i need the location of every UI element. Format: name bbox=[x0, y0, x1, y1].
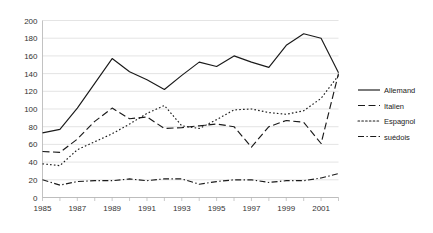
series-line-italien bbox=[43, 74, 339, 153]
x-tick-label-1993: 1993 bbox=[173, 204, 191, 213]
legend-label-italien: Italien bbox=[384, 102, 404, 111]
chart-canvas: 020406080100120140160180200 198519871989… bbox=[0, 0, 433, 233]
x-tick-label-1989: 1989 bbox=[103, 204, 121, 213]
series-line-suédois bbox=[43, 174, 339, 186]
axis-tickmarks bbox=[43, 198, 339, 202]
legend-label-espagnol: Espagnol bbox=[384, 117, 416, 126]
y-tick-label-120: 120 bbox=[24, 87, 38, 96]
x-tick-label-1997: 1997 bbox=[243, 204, 261, 213]
x-tick-label-1985: 1985 bbox=[34, 204, 52, 213]
y-tick-label-100: 100 bbox=[24, 105, 38, 114]
y-tick-label-80: 80 bbox=[29, 123, 38, 132]
y-tick-label-180: 180 bbox=[24, 34, 38, 43]
line-chart: 020406080100120140160180200 198519871989… bbox=[0, 0, 433, 233]
legend-label-allemand: Allemand bbox=[384, 86, 415, 95]
y-tick-label-60: 60 bbox=[29, 140, 38, 149]
x-tick-label-1995: 1995 bbox=[208, 204, 226, 213]
y-tick-label-20: 20 bbox=[29, 176, 38, 185]
x-tick-label-1999: 1999 bbox=[277, 204, 295, 213]
series-line-allemand bbox=[43, 34, 339, 133]
y-tick-label-140: 140 bbox=[24, 70, 38, 79]
series-line-espagnol bbox=[43, 75, 339, 165]
gridlines bbox=[43, 21, 339, 198]
y-tick-label-40: 40 bbox=[29, 158, 38, 167]
legend-label-suédois: suédois bbox=[384, 133, 410, 142]
chart-legend: AllemandItalienEspagnolsuédois bbox=[358, 86, 416, 142]
x-tick-label-2001: 2001 bbox=[312, 204, 330, 213]
y-tick-label-0: 0 bbox=[33, 194, 38, 203]
y-tick-label-200: 200 bbox=[24, 17, 38, 26]
y-axis-tick-labels: 020406080100120140160180200 bbox=[24, 17, 38, 203]
x-axis-tick-labels: 198519871989199119931995199719992001 bbox=[34, 204, 331, 213]
y-tick-label-160: 160 bbox=[24, 52, 38, 61]
x-tick-label-1991: 1991 bbox=[138, 204, 156, 213]
x-tick-label-1987: 1987 bbox=[68, 204, 86, 213]
